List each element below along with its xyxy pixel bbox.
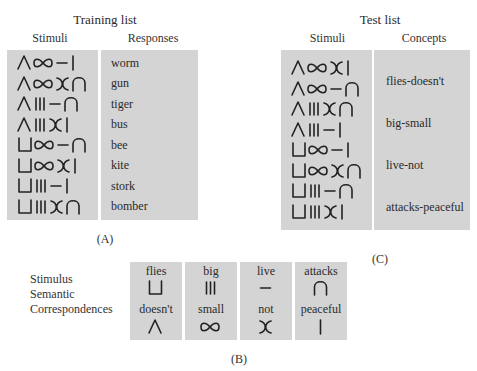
training-response: tiger <box>101 94 198 115</box>
correspondence-cell: livenot <box>240 262 292 340</box>
training-stimulus-row <box>7 115 98 136</box>
top-word: attacks <box>295 264 347 279</box>
training-stimulus-row <box>7 74 98 95</box>
label-line: Correspondences <box>30 302 113 317</box>
test-stimulus-row <box>281 202 372 223</box>
label-line: Semantic <box>30 287 113 302</box>
concept-label: attacks-peaceful <box>386 200 464 215</box>
test-stimulus-row <box>281 58 372 79</box>
bottom-word: peaceful <box>295 302 347 317</box>
concept-label: live-not <box>386 158 423 173</box>
test-stimulus-row <box>281 79 372 100</box>
live-glyph-icon <box>259 278 274 298</box>
training-response: stork <box>101 176 198 197</box>
stimulus-glyphs-icon <box>17 156 98 176</box>
panel-label-b: (B) <box>224 352 254 367</box>
panel-label-c: (C) <box>365 252 395 267</box>
training-stimulus-row <box>7 53 98 74</box>
concept-label: flies-doesn't <box>386 74 444 89</box>
training-responses-header: Responses <box>108 31 198 46</box>
stimulus-glyphs-icon <box>291 79 372 99</box>
stimulus-glyphs-icon <box>17 135 98 155</box>
top-word: big <box>185 264 237 279</box>
test-concepts-header: Concepts <box>378 31 470 46</box>
test-stimulus-row <box>281 140 372 161</box>
test-list-title: Test list <box>330 12 430 28</box>
correspondence-cell: fliesdoesn't <box>130 262 182 340</box>
bottom-word: not <box>240 302 292 317</box>
training-response: bus <box>101 115 198 136</box>
stimulus-glyphs-icon <box>17 197 98 217</box>
top-word: flies <box>130 264 182 279</box>
stimulus-glyphs-icon <box>291 140 372 160</box>
training-response: bee <box>101 135 198 156</box>
training-response: gun <box>101 74 198 95</box>
training-stimulus-row <box>7 176 98 197</box>
top-word: live <box>240 264 292 279</box>
training-stimulus-row <box>7 156 98 177</box>
label-line: Stimulus <box>30 272 113 287</box>
training-list-title: Training list <box>40 12 170 28</box>
concept-label: big-small <box>386 116 431 131</box>
correspondence-grid: fliesdoesn'tbigsmalllivenotattackspeacef… <box>130 262 360 342</box>
stimulus-glyphs-icon <box>17 53 98 73</box>
test-concepts-column: flies-doesn't big-small live-not attacks… <box>374 50 470 230</box>
stimulus-glyphs-icon <box>17 115 98 135</box>
training-response: worm <box>101 53 198 74</box>
test-stimulus-row <box>281 161 372 182</box>
test-stimulus-row <box>281 181 372 202</box>
peaceful-glyph-icon <box>318 317 325 337</box>
training-stimuli-column <box>7 50 98 220</box>
stimulus-glyphs-icon <box>17 176 98 196</box>
training-stimulus-row <box>7 135 98 156</box>
training-response: kite <box>101 156 198 177</box>
bottom-word: small <box>185 302 237 317</box>
training-stimulus-row <box>7 197 98 218</box>
test-stimuli-column <box>281 50 372 230</box>
correspondence-cell: attackspeaceful <box>295 262 347 340</box>
stimulus-glyphs-icon <box>291 99 372 119</box>
test-stimulus-row <box>281 99 372 120</box>
panel-label-a: (A) <box>90 232 120 247</box>
stimulus-glyphs-icon <box>291 58 372 78</box>
attacks-glyph-icon <box>313 278 330 298</box>
flies-glyph-icon <box>148 278 165 298</box>
stimulus-glyphs-icon <box>17 74 98 94</box>
test-stimulus-row <box>281 120 372 141</box>
small-glyph-icon <box>200 317 222 337</box>
doesnt-glyph-icon <box>148 317 164 337</box>
test-stimuli-header: Stimuli <box>285 31 370 46</box>
stimulus-glyphs-icon <box>291 202 372 222</box>
stimulus-glyphs-icon <box>291 181 372 201</box>
training-stimuli-header: Stimuli <box>10 31 90 46</box>
stimulus-glyphs-icon <box>291 120 372 140</box>
correspondences-label: Stimulus Semantic Correspondences <box>30 272 113 317</box>
not-glyph-icon <box>258 317 274 337</box>
training-response: bomber <box>101 197 198 218</box>
big-glyph-icon <box>204 278 219 298</box>
correspondence-cell: bigsmall <box>185 262 237 340</box>
stimulus-glyphs-icon <box>291 161 372 181</box>
bottom-word: doesn't <box>130 302 182 317</box>
stimulus-glyphs-icon <box>17 94 98 114</box>
training-responses-column: wormguntigerbusbeekitestorkbomber <box>101 50 198 220</box>
training-stimulus-row <box>7 94 98 115</box>
